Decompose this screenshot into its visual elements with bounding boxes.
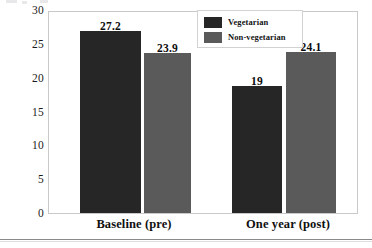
bar-non-vegetarian-oneyear[interactable] — [286, 52, 336, 213]
y-tick-0: 0 — [0, 208, 44, 220]
bottom-divider — [0, 239, 372, 240]
legend-swatch-non-vegetarian-icon — [204, 32, 222, 43]
x-label-baseline: Baseline (pre) — [64, 216, 204, 232]
legend-item-non-vegetarian[interactable]: Non-vegetarian — [204, 30, 286, 44]
bar-label-non-vegetarian-baseline: 23.9 — [139, 42, 196, 54]
bottom-divider-shadow — [0, 241, 372, 242]
bar-label-vegetarian-baseline: 27.2 — [80, 20, 141, 32]
bar-vegetarian-baseline[interactable] — [80, 31, 141, 213]
y-tick-10: 10 — [0, 141, 44, 153]
y-tick-5: 5 — [0, 174, 44, 186]
bar-label-vegetarian-oneyear: 19 — [232, 75, 282, 87]
y-tick-15: 15 — [0, 107, 44, 119]
legend-swatch-vegetarian-icon — [204, 17, 222, 28]
bar-non-vegetarian-baseline[interactable] — [144, 53, 191, 213]
x-axis-labels: Baseline (pre) One year (post) — [48, 216, 358, 236]
y-tick-25: 25 — [0, 39, 44, 51]
legend-item-vegetarian[interactable]: Vegetarian — [204, 15, 268, 29]
y-axis: 30 25 20 15 10 5 0 — [0, 11, 44, 214]
x-label-one-year: One year (post) — [218, 216, 358, 232]
legend-label-vegetarian: Vegetarian — [228, 18, 268, 27]
legend-label-non-vegetarian: Non-vegetarian — [228, 33, 286, 42]
y-tick-30: 30 — [0, 5, 44, 17]
bar-chart-figure: 30 25 20 15 10 5 0 27.2 23.9 19 24.1 Veg… — [0, 0, 372, 248]
legend[interactable]: Vegetarian Non-vegetarian — [197, 10, 303, 48]
y-tick-20: 20 — [0, 73, 44, 85]
bar-vegetarian-oneyear[interactable] — [232, 86, 282, 213]
